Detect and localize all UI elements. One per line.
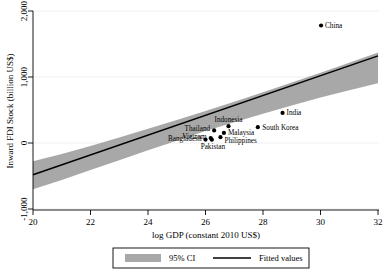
y-tick-label: 1,000 bbox=[19, 66, 29, 87]
x-tick-label: 22 bbox=[86, 217, 95, 227]
data-point-label: Philippines bbox=[224, 137, 257, 145]
legend-label-ci: 95% CI bbox=[169, 253, 195, 263]
data-point-marker bbox=[203, 137, 207, 141]
data-point-marker bbox=[210, 138, 214, 142]
data-point-marker bbox=[319, 23, 323, 27]
x-tick-label: 24 bbox=[144, 217, 154, 227]
data-point-marker bbox=[280, 111, 284, 115]
y-tick-label: 0 bbox=[19, 140, 29, 145]
x-tick-label: 28 bbox=[259, 217, 269, 227]
data-point-label: Indonesia bbox=[215, 116, 244, 124]
y-axis-title: Inward FDI Stock (billion US$) bbox=[5, 54, 15, 169]
legend-label-fitted: Fitted values bbox=[259, 253, 303, 263]
y-tick-label: 2,000 bbox=[19, 0, 29, 21]
data-point-marker bbox=[212, 128, 216, 132]
data-point-marker bbox=[222, 131, 226, 135]
legend-swatch-ci bbox=[125, 254, 161, 262]
chart-figure: ChinaIndiaSouth KoreaIndonesiaThailandMa… bbox=[0, 0, 390, 271]
x-tick-label: 30 bbox=[316, 217, 326, 227]
data-point-label: Bangladesh bbox=[168, 135, 202, 143]
data-point-marker bbox=[256, 125, 260, 129]
data-point-label: India bbox=[287, 109, 303, 117]
data-point-marker bbox=[218, 135, 222, 139]
data-point-label: China bbox=[325, 22, 343, 30]
x-tick-label: 20 bbox=[29, 217, 39, 227]
x-axis-title: log GDP (constant 2010 US$) bbox=[152, 230, 260, 240]
x-tick-label: 32 bbox=[374, 217, 383, 227]
x-tick-label: 26 bbox=[201, 217, 211, 227]
fdi-vs-loggdp-scatter-chart: ChinaIndiaSouth KoreaIndonesiaThailandMa… bbox=[0, 0, 390, 271]
data-point-label: South Korea bbox=[262, 124, 299, 132]
data-point-marker bbox=[226, 124, 230, 128]
data-point-label: Pakistan bbox=[201, 143, 226, 151]
